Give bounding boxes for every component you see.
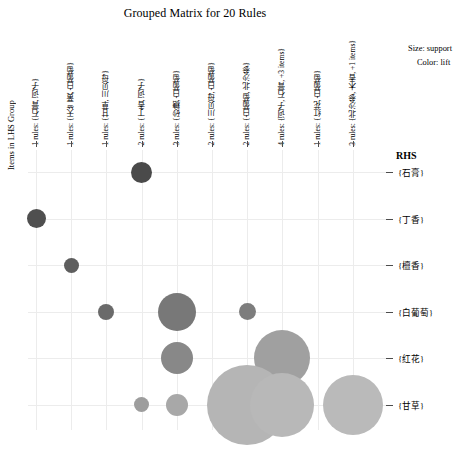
x-axis-label-text: 3 rules: {北沙参, 木香, +1 items} xyxy=(348,40,357,146)
y-axis-tick xyxy=(386,265,393,266)
gridline-vertical xyxy=(318,150,319,430)
rhs-label-1: {石膏} xyxy=(398,166,424,178)
y-axis-tick xyxy=(386,312,393,313)
x-axis-label-text: 2 rules: {丁香, 诃子} xyxy=(137,78,146,146)
x-axis-label-10: 3 rules: {北沙参, 木香, +1 items} xyxy=(348,34,359,146)
bubble xyxy=(27,209,46,228)
x-axis-label-7: 2 rules: {白葡萄, 北沙参} xyxy=(242,34,253,146)
x-axis-label-6: 2 rules: {川贝母, 白葡萄} xyxy=(207,34,218,146)
bubble xyxy=(158,293,196,331)
bubble xyxy=(98,304,114,320)
gridline-vertical xyxy=(177,150,178,430)
bubble xyxy=(250,373,314,437)
x-axis-label-3: 1 rules: {甘草, 川贝母} xyxy=(101,34,112,146)
x-axis-label-text: 2 rules: {川贝母, 白葡萄} xyxy=(207,62,216,146)
x-axis-tick xyxy=(353,141,354,147)
bubble xyxy=(161,342,193,374)
gridline-vertical xyxy=(142,150,143,430)
bubble xyxy=(323,375,383,435)
y-axis-tick xyxy=(386,358,393,359)
x-axis-tick xyxy=(212,141,213,147)
x-axis-label-text: 1 rules: {红花, 白葡萄} xyxy=(313,70,322,146)
rhs-label-5: {红花} xyxy=(398,352,424,364)
x-axis-tick xyxy=(142,141,143,147)
x-axis-label-8: 4 rules: {诃子, 石膏, +3 items} xyxy=(277,34,288,146)
x-axis-tick xyxy=(71,141,72,147)
x-axis-label-5: 3 rules: {砂糖, 白葡萄} xyxy=(172,34,183,146)
x-axis-tick xyxy=(318,141,319,147)
grouped-matrix-plot: Grouped Matrix for 20 Rules Items in LHS… xyxy=(0,0,468,455)
bubble xyxy=(166,394,188,416)
page-title: Grouped Matrix for 20 Rules xyxy=(0,6,390,21)
gridline-vertical xyxy=(106,150,107,430)
gridline-horizontal xyxy=(28,265,392,266)
x-axis-label-4: 2 rules: {丁香, 诃子} xyxy=(137,34,148,146)
gridline-horizontal xyxy=(28,358,392,359)
bubble xyxy=(239,303,256,320)
x-axis-label-text: 2 rules: {白葡萄, 北沙参} xyxy=(242,62,251,146)
y-axis-tick xyxy=(386,172,393,173)
x-axis-tick xyxy=(247,141,248,147)
rhs-label-4: {白葡萄} xyxy=(398,306,433,318)
x-axis-label-text: 3 rules: {砂糖, 白葡萄} xyxy=(172,70,181,146)
bubble xyxy=(134,397,149,412)
x-axis-tick xyxy=(36,141,37,147)
y-axis-tick xyxy=(386,405,393,406)
rhs-label-2: {丁香} xyxy=(398,213,424,225)
bubble xyxy=(64,258,79,273)
rhs-label-6: {甘草} xyxy=(398,399,424,411)
legend-size: Size: support xyxy=(408,44,452,53)
x-axis-label-2: 1 rules: {天竺黄, 白葡萄} xyxy=(66,34,77,146)
x-axis-label-text: 1 rules: {石膏, 诃子} xyxy=(31,78,40,146)
x-axis-label-text: 1 rules: {天竺黄, 白葡萄} xyxy=(66,62,75,146)
gridline-horizontal xyxy=(28,172,392,173)
rhs-label-3: {檀香} xyxy=(398,259,424,271)
x-axis-tick xyxy=(177,141,178,147)
gridline-horizontal xyxy=(28,219,392,220)
legend-color: Color: lift xyxy=(417,58,450,67)
rhs-header: RHS xyxy=(396,150,417,161)
x-axis-tick xyxy=(106,141,107,147)
gridline-vertical xyxy=(36,150,37,430)
gridline-vertical xyxy=(71,150,72,430)
bubble xyxy=(131,162,152,183)
x-axis-label-9: 1 rules: {红花, 白葡萄} xyxy=(313,34,324,146)
x-axis-label-text: 1 rules: {甘草, 川贝母} xyxy=(101,70,110,146)
y-axis-tick xyxy=(386,219,393,220)
x-axis-tick xyxy=(282,141,283,147)
x-axis-label-1: 1 rules: {石膏, 诃子} xyxy=(31,34,42,146)
y-axis-label: Items in LHS Group xyxy=(4,50,18,170)
x-axis-label-text: 4 rules: {诃子, 石膏, +3 items} xyxy=(277,48,286,146)
gridline-horizontal xyxy=(28,312,392,313)
